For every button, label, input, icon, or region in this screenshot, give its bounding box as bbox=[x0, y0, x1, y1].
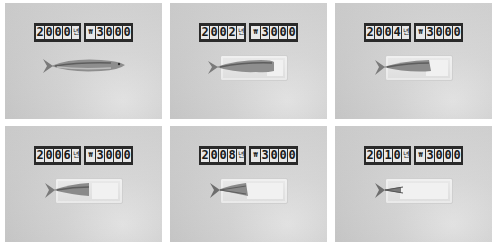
price-digit: 0 bbox=[105, 26, 113, 39]
won-sign-icon: ₩ bbox=[416, 26, 425, 39]
won-sign-icon: ₩ bbox=[86, 26, 95, 39]
fish-icon bbox=[206, 56, 278, 78]
label-row: 2 0 0 4 년 ₩ 3 0 0 0 bbox=[335, 23, 492, 42]
year-unit: 년 bbox=[402, 149, 409, 162]
won-sign-icon: ₩ bbox=[416, 149, 425, 162]
price-digit: 0 bbox=[270, 149, 278, 162]
fish-icon bbox=[373, 179, 407, 201]
photo-panel-2006: 2 0 0 6 년 ₩ 3 0 0 0 bbox=[5, 126, 162, 242]
price-digit: 0 bbox=[105, 149, 113, 162]
year-digit: 2 bbox=[36, 26, 44, 39]
price-digit: 0 bbox=[279, 149, 287, 162]
price-digit: 0 bbox=[279, 26, 287, 39]
year-digit: 4 bbox=[393, 26, 401, 39]
price-label: ₩ 3 0 0 0 bbox=[249, 23, 298, 42]
price-digit: 0 bbox=[453, 26, 461, 39]
year-digit: 0 bbox=[219, 26, 227, 39]
photo-panel-2004: 2 0 0 4 년 ₩ 3 0 0 0 bbox=[335, 3, 492, 119]
price-label: ₩ 3 0 0 0 bbox=[414, 146, 463, 165]
photo-panel-2000: 2 0 0 0 년 ₩ 3 0 0 0 bbox=[5, 3, 162, 119]
year-unit: 년 bbox=[237, 26, 244, 39]
year-digit: 2 bbox=[201, 149, 209, 162]
price-label: ₩ 3 0 0 0 bbox=[249, 146, 298, 165]
price-digit: 0 bbox=[435, 26, 443, 39]
year-unit: 년 bbox=[237, 149, 244, 162]
fish-icon bbox=[373, 56, 435, 78]
year-unit: 년 bbox=[402, 26, 409, 39]
price-label: ₩ 3 0 0 0 bbox=[414, 23, 463, 42]
price-digit: 3 bbox=[426, 149, 434, 162]
year-label: 2 0 0 4 년 bbox=[364, 23, 411, 42]
year-digit: 8 bbox=[228, 149, 236, 162]
price-digit: 0 bbox=[114, 149, 122, 162]
year-digit: 0 bbox=[375, 149, 383, 162]
label-row: 2 0 0 6 년 ₩ 3 0 0 0 bbox=[5, 146, 162, 165]
price-digit: 3 bbox=[261, 149, 269, 162]
year-unit: 년 bbox=[72, 149, 79, 162]
price-digit: 0 bbox=[114, 26, 122, 39]
photo-panel-2002: 2 0 0 2 년 ₩ 3 0 0 0 bbox=[170, 3, 327, 119]
fish-icon bbox=[41, 55, 127, 77]
fish-icon bbox=[208, 179, 252, 201]
year-digit: 0 bbox=[45, 26, 53, 39]
price-digit: 0 bbox=[453, 149, 461, 162]
year-digit: 0 bbox=[45, 149, 53, 162]
year-digit: 0 bbox=[210, 149, 218, 162]
price-digit: 3 bbox=[96, 26, 104, 39]
price-digit: 0 bbox=[123, 149, 131, 162]
year-digit: 0 bbox=[219, 149, 227, 162]
price-digit: 3 bbox=[426, 26, 434, 39]
year-digit: 0 bbox=[63, 26, 71, 39]
year-digit: 0 bbox=[54, 26, 62, 39]
won-sign-icon: ₩ bbox=[86, 149, 95, 162]
won-sign-icon: ₩ bbox=[251, 149, 260, 162]
year-digit: 2 bbox=[228, 26, 236, 39]
year-digit: 1 bbox=[384, 149, 392, 162]
year-label: 2 0 0 8 년 bbox=[199, 146, 246, 165]
year-digit: 6 bbox=[63, 149, 71, 162]
year-digit: 0 bbox=[375, 26, 383, 39]
price-digit: 0 bbox=[288, 26, 296, 39]
price-digit: 0 bbox=[288, 149, 296, 162]
price-label: ₩ 3 0 0 0 bbox=[84, 23, 133, 42]
price-digit: 0 bbox=[435, 149, 443, 162]
price-label: ₩ 3 0 0 0 bbox=[84, 146, 133, 165]
fish-icon bbox=[43, 179, 95, 201]
year-label: 2 0 1 0 년 bbox=[364, 146, 411, 165]
year-digit: 0 bbox=[210, 26, 218, 39]
price-digit: 0 bbox=[270, 26, 278, 39]
year-unit: 년 bbox=[72, 26, 79, 39]
year-digit: 0 bbox=[393, 149, 401, 162]
year-label: 2 0 0 6 년 bbox=[34, 146, 81, 165]
year-label: 2 0 0 2 년 bbox=[199, 23, 246, 42]
year-digit: 0 bbox=[384, 26, 392, 39]
year-digit: 2 bbox=[366, 26, 374, 39]
year-digit: 2 bbox=[366, 149, 374, 162]
label-row: 2 0 0 0 년 ₩ 3 0 0 0 bbox=[5, 23, 162, 42]
year-label: 2 0 0 0 년 bbox=[34, 23, 81, 42]
price-digit: 0 bbox=[444, 149, 452, 162]
price-digit: 3 bbox=[96, 149, 104, 162]
label-row: 2 0 0 8 년 ₩ 3 0 0 0 bbox=[170, 146, 327, 165]
price-digit: 0 bbox=[444, 26, 452, 39]
year-digit: 2 bbox=[36, 149, 44, 162]
won-sign-icon: ₩ bbox=[251, 26, 260, 39]
price-digit: 3 bbox=[261, 26, 269, 39]
year-digit: 0 bbox=[54, 149, 62, 162]
photo-panel-2010: 2 0 1 0 년 ₩ 3 0 0 0 bbox=[335, 126, 492, 242]
label-row: 2 0 0 2 년 ₩ 3 0 0 0 bbox=[170, 23, 327, 42]
year-digit: 2 bbox=[201, 26, 209, 39]
photo-panel-2008: 2 0 0 8 년 ₩ 3 0 0 0 bbox=[170, 126, 327, 242]
label-row: 2 0 1 0 년 ₩ 3 0 0 0 bbox=[335, 146, 492, 165]
price-digit: 0 bbox=[123, 26, 131, 39]
